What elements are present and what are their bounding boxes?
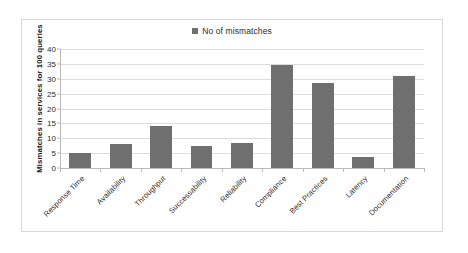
bar-slot [141, 49, 181, 168]
bar[interactable] [150, 126, 172, 168]
x-label-slot: Best Practices [303, 170, 343, 230]
bar-series [60, 49, 424, 168]
bar-slot [181, 49, 221, 168]
y-axis-tick-label: 30 [34, 74, 56, 83]
y-axis-tick-label: 0 [34, 164, 56, 173]
y-axis-tick-label: 20 [34, 104, 56, 113]
bar-slot [100, 49, 140, 168]
bar[interactable] [352, 157, 374, 168]
bar-slot [60, 49, 100, 168]
bar[interactable] [191, 146, 213, 168]
chart-legend: No of mismatches [22, 26, 442, 36]
bar[interactable] [312, 83, 334, 168]
x-axis-tick-labels: Response TimeAvailabilityThroughputSucce… [60, 170, 424, 230]
bar-slot [384, 49, 424, 168]
bar[interactable] [393, 76, 415, 168]
y-axis-tick-labels: 4035302520151050 [34, 49, 56, 168]
bar[interactable] [231, 143, 253, 168]
plot-area: 4035302520151050 [60, 49, 424, 168]
bar-slot [343, 49, 383, 168]
x-axis-tick-mark [424, 168, 425, 172]
x-axis-tick-label: Reliability [218, 174, 248, 204]
x-axis-tick-label: Response Time [42, 174, 87, 219]
y-axis-tick-label: 35 [34, 59, 56, 68]
x-label-slot: Documentation [384, 170, 424, 230]
y-axis-tick-label: 10 [34, 134, 56, 143]
bar[interactable] [110, 144, 132, 168]
y-axis-tick-label: 15 [34, 119, 56, 128]
y-axis-tick-label: 40 [34, 45, 56, 54]
bar-slot [222, 49, 262, 168]
x-axis-tick-label: Latency [344, 174, 370, 200]
y-axis-tick-label: 5 [34, 149, 56, 158]
bar-slot [303, 49, 343, 168]
square-marker-icon [192, 28, 198, 34]
chart-figure: No of mismatches Mismatches in services … [21, 19, 443, 232]
bar[interactable] [69, 153, 91, 168]
x-label-slot: Successability [181, 170, 221, 230]
legend-item-label: No of mismatches [202, 26, 272, 36]
y-axis-tick-label: 25 [34, 89, 56, 98]
bar-slot [262, 49, 302, 168]
bar[interactable] [271, 65, 293, 168]
